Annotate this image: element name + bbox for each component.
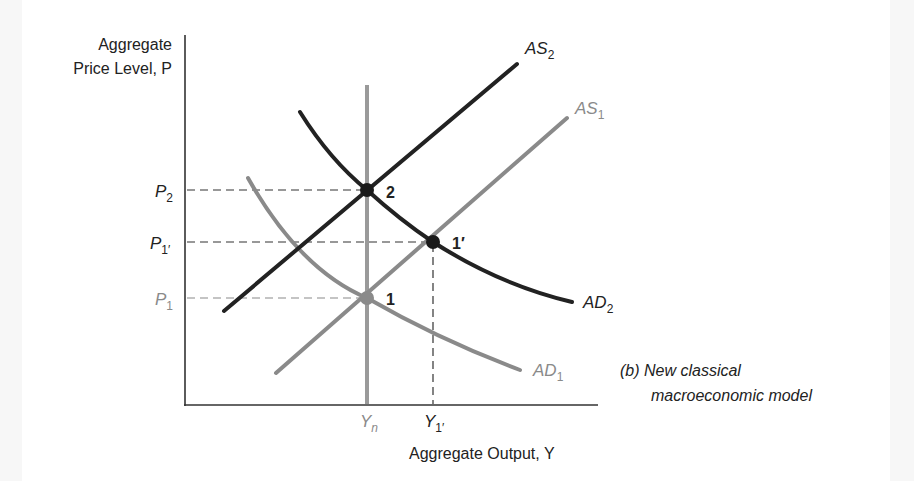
economics-chart: 2 1′ 1 Aggregate Price Level, P P2 P1′ P… [0,0,914,481]
as1-line [276,118,567,373]
p1-tick-label: P1 [155,290,173,313]
x-axis-title: Aggregate Output, Y [409,445,555,462]
ad2-label: AD2 [582,293,614,316]
caption-line2: macroeconomic model [651,387,812,404]
p1prime-tick-label: P1′ [150,234,171,257]
ad1-label: AD1 [532,361,564,384]
as1-label: AS1 [574,99,605,122]
y-axis-title-line1: Aggregate [98,36,172,53]
point-1 [360,291,374,305]
y1prime-tick-label: Y1′ [424,412,445,435]
as2-label: AS2 [524,39,555,62]
point-1-prime-label: 1′ [452,235,465,252]
p2-tick-label: P2 [155,182,173,205]
point-1-label: 1 [386,291,395,308]
point-1-prime [426,235,440,249]
caption-line1: (b) New classical [620,362,741,379]
yn-tick-label: Yn [360,412,378,435]
point-2 [360,183,374,197]
ad2-curve [300,112,572,302]
y-axis-title-line2: Price Level, P [73,60,172,77]
point-2-label: 2 [386,184,395,201]
